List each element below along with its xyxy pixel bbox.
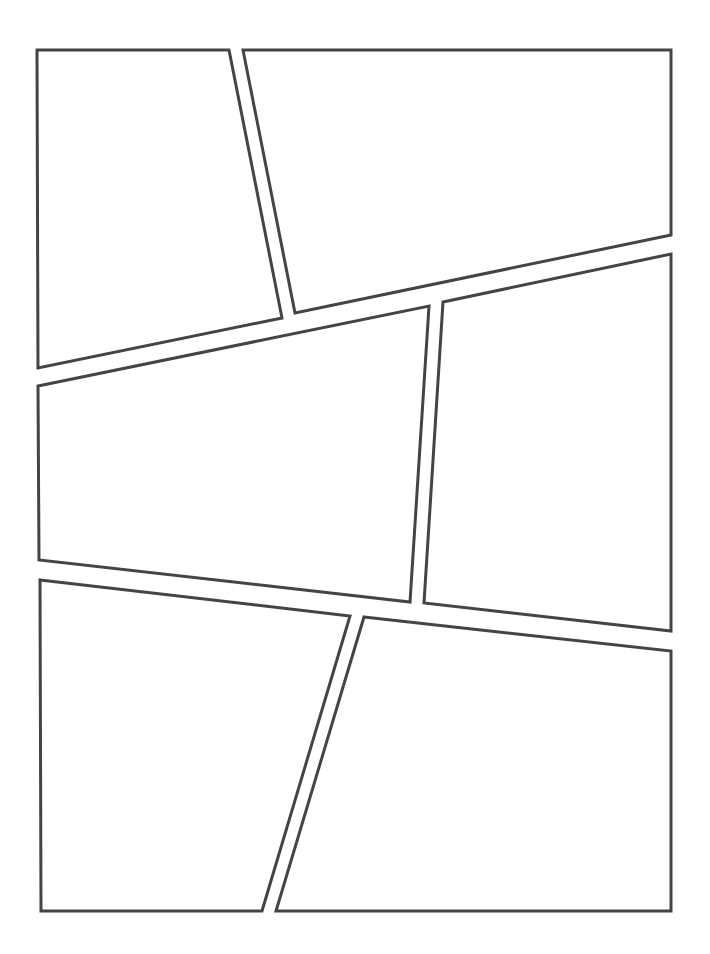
comic-panel-4 — [424, 254, 671, 631]
comic-panel-1 — [37, 50, 282, 368]
comic-page-layout — [0, 0, 710, 954]
